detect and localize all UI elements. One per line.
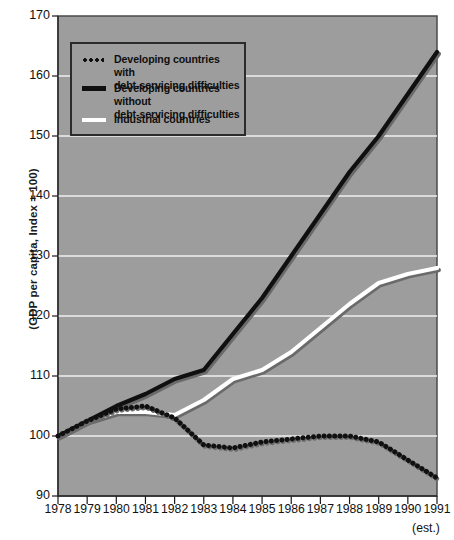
- x-axis-tick-label: 1991: [420, 503, 454, 515]
- legend-item-industrial-countries: Industrial countries: [81, 113, 243, 127]
- x-axis-estimate-note: (est.): [404, 521, 448, 535]
- legend-label-line1: Industrial countries: [114, 113, 210, 125]
- dotted-line-swatch-icon: [81, 53, 107, 67]
- solid-black-line-swatch-icon: [81, 82, 107, 96]
- legend-label-industrial-countries: Industrial countries: [114, 113, 210, 126]
- chart-legend: Developing countries with debt-servicing…: [70, 42, 246, 136]
- solid-white-line-swatch-icon: [81, 113, 107, 127]
- legend-label-line1: Developing countries with: [114, 53, 220, 78]
- legend-label-line1: Developing countries without: [114, 82, 220, 107]
